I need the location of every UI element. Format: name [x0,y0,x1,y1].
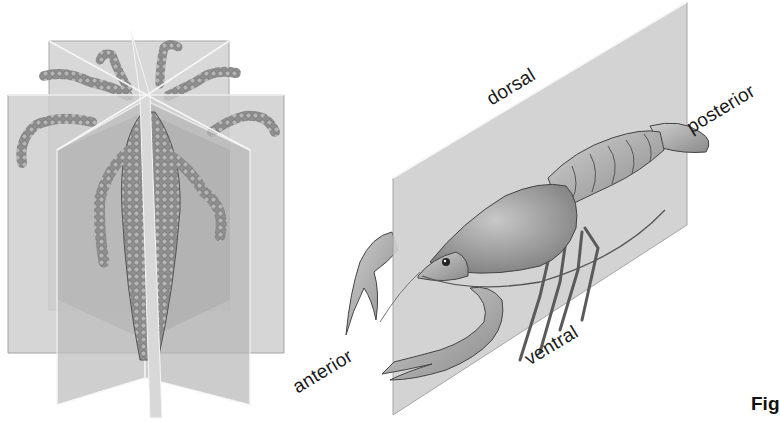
eye [442,258,450,266]
radial-symmetry-diagram [8,31,284,418]
rear-claw [346,232,398,335]
figure-caption: Fig [751,393,780,415]
